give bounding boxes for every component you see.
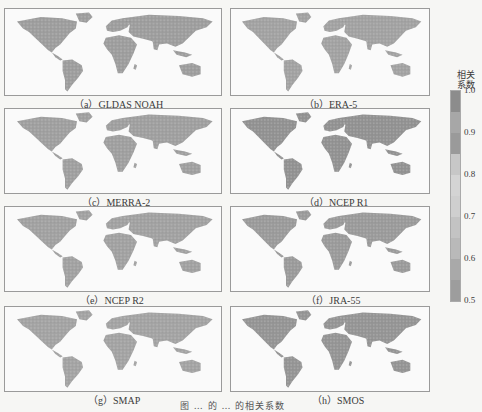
colorbar [450,90,461,302]
figure-caption: 图 … 的 … 的相关系数 [180,399,285,412]
world-map-graphic [231,207,429,291]
map-panel-smap [4,306,222,392]
world-map-graphic [5,307,221,391]
panel-label-h: （h）SMOS [312,392,364,407]
panel-label-e: （e）NCEP R2 [80,292,144,307]
map-panel-era5 [230,8,430,96]
world-map-graphic [231,307,429,391]
colorbar-segment [451,112,460,133]
world-map-graphic [5,207,221,291]
colorbar-tick-0-5: 0.5 [464,295,475,305]
colorbar-segment [451,91,460,112]
world-map-graphic [231,109,429,193]
colorbar-tick-1-0: 1.0 [464,85,475,95]
colorbar-segment [451,238,460,259]
map-panel-gldas-noah [4,8,222,96]
world-map-graphic [231,9,429,95]
map-panel-ncep-r1 [230,108,430,194]
world-map-graphic [5,9,221,95]
world-map-graphic [5,109,221,193]
colorbar-tick-0-9: 0.9 [464,127,475,137]
map-panel-jra55 [230,206,430,292]
colorbar-tick-0-6: 0.6 [464,253,475,263]
colorbar-segment [451,154,460,175]
colorbar-tick-0-7: 0.7 [464,211,475,221]
colorbar-tick-0-8: 0.8 [464,169,475,179]
panel-label-g: （g）SMAP [88,392,140,407]
colorbar-segment [451,217,460,238]
colorbar-segment [451,196,460,217]
map-panel-smos [230,306,430,392]
colorbar-segment [451,280,460,301]
colorbar-segment [451,133,460,154]
colorbar-segment [451,259,460,280]
map-panel-merra2 [4,108,222,194]
map-panel-ncep-r2 [4,206,222,292]
colorbar-segment [451,175,460,196]
colorbar-title-line1: 相关 [452,70,480,80]
panel-label-f: （f）JRA-55 [306,292,360,307]
